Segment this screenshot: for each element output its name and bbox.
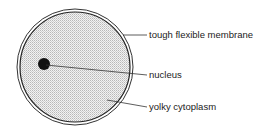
nucleus	[38, 58, 50, 70]
label-nucleus: nucleus	[149, 70, 182, 80]
cytoplasm	[20, 12, 130, 122]
label-cytoplasm: yolky cytoplasm	[149, 102, 216, 112]
label-membrane: tough flexible membrane	[149, 30, 253, 40]
egg-cell-diagram	[0, 0, 263, 137]
